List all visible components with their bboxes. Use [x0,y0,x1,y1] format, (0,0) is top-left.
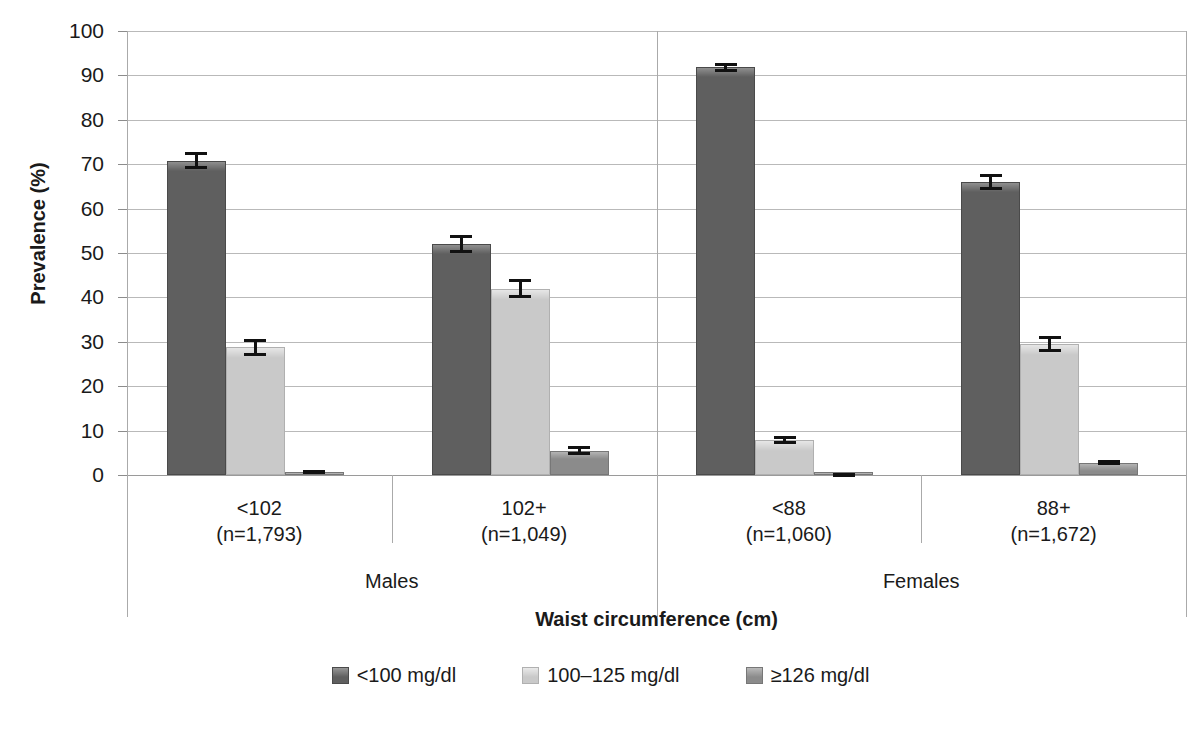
y-tick-mark-20 [118,386,127,387]
legend-label: <100 mg/dl [357,664,457,687]
bar-cat1-series0 [432,244,491,475]
y-tick-label-90: 90 [52,64,104,85]
series-light-swatch [522,667,539,684]
bar-cat2-series0 [696,67,755,475]
category-label-1: 102+(n=1,049) [392,495,657,547]
y-tick-label-0: 0 [52,464,104,485]
y-tick-mark-90 [118,75,127,76]
category-separator-4 [1186,31,1187,617]
legend-label: ≥126 mg/dl [771,664,870,687]
supergroup-label-males: Males [127,570,657,593]
category-label-line: (n=1,793) [127,521,392,547]
y-tick-label-30: 30 [52,331,104,352]
y-axis-title: Prevalence (%) [27,124,50,344]
bar-chart-figure: Prevalence (%) 0102030405060708090100 <1… [0,0,1201,732]
y-tick-label-80: 80 [52,109,104,130]
legend-item-2[interactable]: ≥126 mg/dl [746,664,870,687]
error-bar-cap-top [715,63,737,66]
bar-cat0-series0 [167,161,226,475]
error-bar-cap-top [509,279,531,282]
bar-cat3-series2 [1079,463,1138,475]
category-label-line: (n=1,672) [921,521,1186,547]
category-label-line: (n=1,060) [657,521,922,547]
category-label-line: 88+ [921,495,1186,521]
error-bar-cap-top [980,174,1002,177]
x-axis-title: Waist circumference (cm) [127,608,1186,631]
y-tick-label-100: 100 [52,20,104,41]
plot-area [127,31,1186,475]
y-tick-label-50: 50 [52,242,104,263]
series-mid-swatch [746,667,763,684]
y-tick-mark-100 [118,31,127,32]
y-tick-label-20: 20 [52,375,104,396]
y-tick-label-70: 70 [52,153,104,174]
error-bar-cap-top [1039,336,1061,339]
chart-legend: <100 mg/dl100–125 mg/dl≥126 mg/dl [0,664,1201,687]
y-tick-mark-0 [118,475,127,476]
legend-label: 100–125 mg/dl [547,664,679,687]
category-label-line: 102+ [392,495,657,521]
category-label-3: 88+(n=1,672) [921,495,1186,547]
category-label-0: <102(n=1,793) [127,495,392,547]
y-tick-mark-30 [118,342,127,343]
y-tick-label-60: 60 [52,198,104,219]
bar-cat2-series1 [755,440,814,475]
y-tick-mark-50 [118,253,127,254]
bar-cat0-series2 [285,472,344,475]
y-tick-mark-40 [118,297,127,298]
bar-cat0-series1 [226,347,285,475]
bar-cat2-series2 [814,472,873,475]
bar-cat1-series2 [550,451,609,475]
y-tick-label-40: 40 [52,286,104,307]
y-tick-mark-80 [118,120,127,121]
error-bar-cap-top [185,152,207,155]
supergroup-label-females: Females [657,570,1187,593]
error-bar-cap-top [450,235,472,238]
legend-item-0[interactable]: <100 mg/dl [332,664,457,687]
error-bar-cap-top [774,436,796,439]
y-tick-label-10: 10 [52,420,104,441]
bar-cat3-series0 [961,182,1020,475]
y-tick-mark-60 [118,209,127,210]
legend-item-1[interactable]: 100–125 mg/dl [522,664,679,687]
category-label-line: <102 [127,495,392,521]
category-label-line: <88 [657,495,922,521]
category-label-line: (n=1,049) [392,521,657,547]
series-dark-swatch [332,667,349,684]
category-label-2: <88(n=1,060) [657,495,922,547]
bar-cat3-series1 [1020,344,1079,475]
y-tick-mark-70 [118,164,127,165]
bar-cat1-series1 [491,289,550,475]
error-bar-cap-top [568,446,590,449]
y-tick-mark-10 [118,431,127,432]
